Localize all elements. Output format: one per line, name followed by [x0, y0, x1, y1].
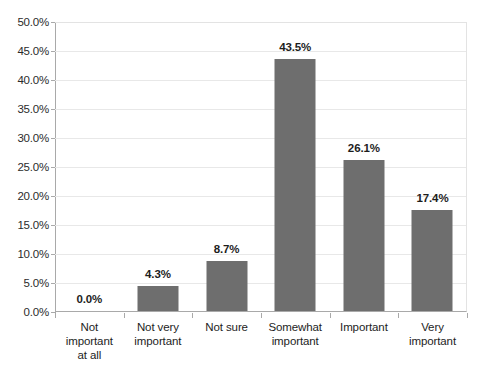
bar-slot: 4.3%	[124, 22, 193, 311]
x-axis-label-line: important	[55, 334, 124, 348]
x-axis-label-line: Not	[55, 320, 124, 334]
y-axis-tick-label: 40.0%	[2, 74, 49, 86]
x-axis-label-line: Very	[398, 320, 467, 334]
x-axis-category-label: Important	[330, 320, 399, 334]
plot-area: 0.0% 4.3% 8.7% 43.5% 26.1% 17.4%	[55, 22, 467, 312]
bar[interactable]	[137, 286, 178, 311]
bar-value-label: 43.5%	[279, 41, 311, 53]
bar-slot: 17.4%	[398, 22, 467, 311]
bar-value-label: 0.0%	[76, 293, 102, 305]
x-axis-category-label: Not important at all	[55, 320, 124, 362]
x-axis-tick-mark	[124, 313, 125, 318]
bar-slot: 26.1%	[330, 22, 399, 311]
x-axis-tick-mark	[192, 313, 193, 318]
x-axis-tick-mark	[398, 313, 399, 318]
x-axis-category-label: Very important	[398, 320, 467, 348]
x-axis-category-label: Not very important	[124, 320, 193, 348]
bar[interactable]	[412, 210, 453, 311]
bar-slot: 43.5%	[261, 22, 330, 311]
x-axis-tick-mark	[467, 313, 468, 318]
x-axis-label-line: important	[261, 334, 330, 348]
y-axis-tick-label: 35.0%	[2, 103, 49, 115]
x-axis-label-line: Not sure	[192, 320, 261, 334]
bar-value-label: 8.7%	[214, 243, 240, 255]
x-axis-category-label: Not sure	[192, 320, 261, 334]
bar-chart: 50.0% 45.0% 40.0% 35.0% 30.0% 25.0% 20.0…	[0, 0, 478, 371]
y-axis-tick-label: 30.0%	[2, 132, 49, 144]
x-axis-label-line: Important	[330, 320, 399, 334]
bar[interactable]	[206, 261, 247, 311]
bar[interactable]	[275, 59, 316, 311]
y-axis-tick-label: 0.0%	[2, 306, 49, 318]
y-axis-tick-label: 25.0%	[2, 161, 49, 173]
bar-slot: 8.7%	[192, 22, 261, 311]
x-axis-category-labels: Not important at all Not very important …	[55, 320, 467, 371]
bar-slot: 0.0%	[55, 22, 124, 311]
y-axis-tick-label: 50.0%	[2, 16, 49, 28]
x-axis-label-line: Somewhat	[261, 320, 330, 334]
x-axis-tick-mark	[330, 313, 331, 318]
bar-value-label: 26.1%	[348, 142, 380, 154]
y-axis-tick-label: 15.0%	[2, 219, 49, 231]
x-axis-label-line: important	[124, 334, 193, 348]
x-axis-category-label: Somewhat important	[261, 320, 330, 348]
x-axis-tick-mark	[55, 313, 56, 318]
x-axis-label-line: Not very	[124, 320, 193, 334]
bar-value-label: 4.3%	[145, 268, 171, 280]
bar[interactable]	[343, 160, 384, 311]
y-axis-tick-label: 5.0%	[2, 277, 49, 289]
y-axis-tick-labels: 50.0% 45.0% 40.0% 35.0% 30.0% 25.0% 20.0…	[0, 0, 49, 371]
y-axis-tick-label: 45.0%	[2, 45, 49, 57]
y-axis-tick-label: 20.0%	[2, 190, 49, 202]
bar-value-label: 17.4%	[416, 192, 448, 204]
x-axis-label-line: important	[398, 334, 467, 348]
y-axis-tick-label: 10.0%	[2, 248, 49, 260]
x-axis-tick-mark	[261, 313, 262, 318]
x-axis-label-line: at all	[55, 348, 124, 362]
